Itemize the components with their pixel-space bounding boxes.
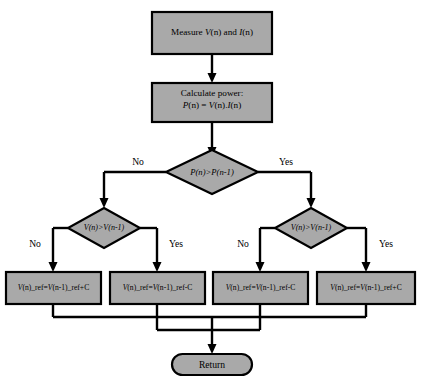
node-result-3[interactable] [213,272,308,304]
node-result-1[interactable] [6,272,101,304]
node-result-2[interactable] [110,272,205,304]
node-result-4[interactable] [317,272,415,304]
arrowhead-voltage-right [307,198,316,208]
arrowhead-result-2 [153,262,162,272]
arrowhead-result-1 [49,262,58,272]
arrowhead-return [208,344,217,354]
node-return[interactable] [172,354,252,375]
flowchart-canvas: Measure V(n) and I(n) Calculate power: P… [0,0,423,379]
arrowhead-calculate [208,73,217,83]
node-decision-voltage-left[interactable] [68,208,140,248]
node-decision-voltage-right[interactable] [275,208,347,248]
arrowhead-result-3 [256,262,265,272]
arrowhead-result-4 [362,262,371,272]
flowchart-svg [0,0,423,379]
arrowhead-voltage-left [100,198,109,208]
node-decision-power[interactable] [166,150,258,194]
node-measure[interactable] [152,12,272,54]
node-calculate-power[interactable] [152,83,272,122]
